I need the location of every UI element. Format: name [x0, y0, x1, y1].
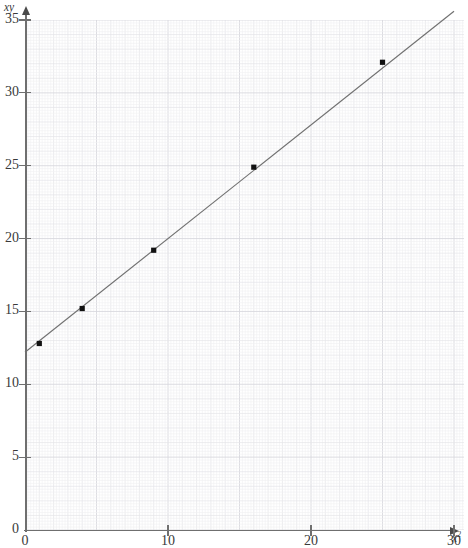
- x-axis-tick-label: 30: [434, 534, 468, 548]
- x-axis-tick-label: 20: [291, 534, 331, 548]
- y-axis-tick-label: 15: [5, 303, 19, 317]
- y-axis-tick-label: 10: [5, 376, 19, 390]
- y-axis-tick-label: 35: [5, 12, 19, 26]
- y-axis-tick-label: 5: [12, 449, 19, 463]
- x-axis-tick-label: 10: [148, 534, 188, 548]
- y-axis-arrow-icon: [22, 6, 30, 15]
- y-axis-tick: [19, 165, 31, 166]
- y-axis-tick: [19, 311, 31, 312]
- y-axis-tick: [19, 92, 31, 93]
- y-axis-title: xy: [4, 2, 14, 14]
- chart-canvas: (1, 12.8)(4, 15.2)(9, 19.2)(16, 24.9)(25…: [0, 0, 468, 548]
- y-axis-tick-label: 30: [5, 85, 19, 99]
- y-axis-tick-label: 25: [5, 158, 19, 172]
- y-axis-tick-label: 20: [5, 231, 19, 245]
- x-axis-line: [24, 530, 452, 531]
- y-axis-tick: [19, 384, 31, 385]
- y-axis-tick: [19, 238, 31, 239]
- y-axis-tick: [19, 457, 31, 458]
- x-axis-title-exponent: 2: [457, 530, 461, 539]
- grid-lines: [25, 20, 464, 530]
- x-axis-tick-label: 0: [5, 534, 45, 548]
- y-axis-tick: [19, 19, 31, 20]
- plot-grid-area: [25, 20, 464, 530]
- x-axis-title: x2: [452, 531, 461, 544]
